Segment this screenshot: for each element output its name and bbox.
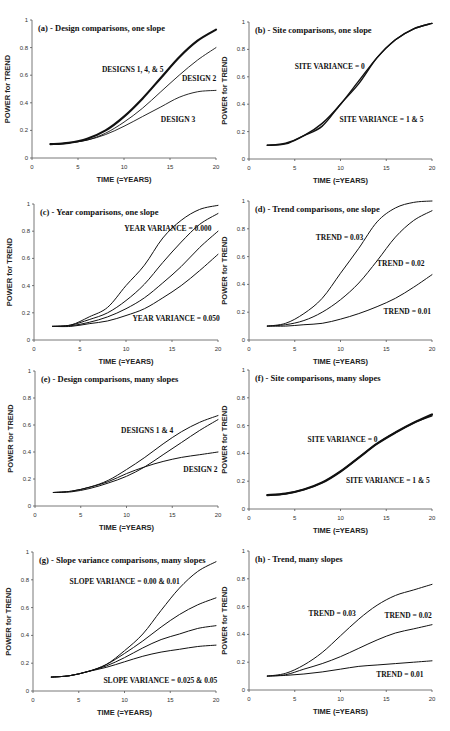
- x-tick-label: 5: [77, 697, 81, 703]
- y-tick-label: 0: [28, 503, 32, 509]
- x-tick-label: 10: [337, 696, 344, 702]
- chart-panel-c: 00.20.40.60.8105101520TIME (=YEARS)POWER…: [5, 201, 222, 366]
- y-tick-label: 0.4: [237, 101, 246, 107]
- y-tick-label: 0.2: [22, 310, 31, 316]
- y-tick-label: 0: [242, 687, 246, 693]
- y-axis-title: POWER for TREND: [220, 586, 229, 655]
- y-tick-label: 0.6: [23, 422, 32, 428]
- x-tick-label: 5: [79, 512, 83, 518]
- y-tick-label: 1: [26, 549, 30, 555]
- series-line: [267, 625, 432, 676]
- figure-grid: 00.20.40.60.8105101520TIME (=YEARS)POWER…: [0, 0, 450, 731]
- y-tick-label: 0.8: [237, 576, 246, 582]
- y-tick-label: 0.2: [237, 129, 246, 135]
- y-tick-label: 0.4: [237, 631, 246, 637]
- x-tick-label: 20: [429, 696, 436, 702]
- y-tick-label: 1: [242, 19, 246, 25]
- y-tick-label: 0.4: [237, 281, 246, 287]
- y-tick-label: 1: [242, 548, 246, 554]
- x-tick-label: 20: [429, 165, 436, 171]
- y-tick-label: 0.6: [237, 423, 246, 429]
- y-tick-label: 0.6: [22, 255, 31, 261]
- series-annotation: SITE VARIANCE = 0: [295, 62, 365, 71]
- y-tick-label: 0.2: [237, 309, 246, 315]
- x-tick-label: 0: [247, 165, 251, 171]
- panel-title: (e) - Design comparisons, many slopes: [41, 374, 179, 384]
- x-tick-label: 15: [169, 512, 176, 518]
- y-tick-label: 0: [25, 155, 29, 161]
- panel-title: (c) - Year comparisons, one slope: [40, 207, 159, 217]
- y-tick-label: 0.4: [237, 450, 246, 456]
- x-tick-label: 20: [215, 346, 222, 352]
- y-axis-title: POWER for TREND: [220, 405, 229, 474]
- y-tick-label: 0.6: [237, 74, 246, 80]
- series-annotation: TREND = 0.01: [376, 670, 424, 679]
- series-line: [51, 645, 216, 677]
- panel-title: (d) - Trend comparisons, one slope: [255, 204, 380, 214]
- x-tick-label: 10: [121, 697, 128, 703]
- y-tick-label: 0.6: [237, 604, 246, 610]
- y-axis-title: POWER for TREND: [220, 56, 229, 125]
- series-annotation: TREND = 0.03: [316, 233, 364, 242]
- y-tick-label: 0.2: [237, 659, 246, 665]
- x-axis-title: TIME (=YEARS): [313, 526, 369, 535]
- series-line: [51, 598, 216, 677]
- x-tick-label: 15: [383, 165, 390, 171]
- series-annotation: SITE VARIANCE = 1 & 5: [340, 115, 424, 124]
- series-annotation: TREND = 0.02: [384, 611, 432, 620]
- y-tick-label: 0.4: [20, 100, 29, 106]
- y-axis-title: POWER for TREND: [6, 404, 15, 473]
- y-tick-label: 0.2: [20, 127, 29, 133]
- x-axis-title: TIME (=YEARS): [313, 707, 369, 716]
- series-annotation: TREND = 0.03: [308, 609, 356, 618]
- y-tick-label: 0: [27, 337, 31, 343]
- x-tick-label: 5: [293, 696, 297, 702]
- y-tick-label: 0.2: [23, 476, 32, 482]
- series-line: [267, 23, 432, 145]
- y-tick-label: 0.6: [237, 254, 246, 260]
- series-annotation: YEAR VARIANCE = 0.000: [124, 224, 212, 233]
- series-line: [267, 23, 432, 145]
- x-tick-label: 10: [337, 346, 344, 352]
- y-axis-title: POWER for TREND: [5, 237, 14, 306]
- y-tick-label: 0.6: [21, 605, 30, 611]
- y-tick-label: 0.8: [22, 228, 31, 234]
- chart-panel-f: 00.20.40.60.8105101520TIME (=YEARS)POWER…: [220, 367, 436, 535]
- series-line: [50, 48, 216, 145]
- y-tick-label: 0.8: [21, 577, 30, 583]
- panel-title: (h) - Trend, many slopes: [255, 554, 343, 564]
- y-tick-label: 0.4: [23, 449, 32, 455]
- series-annotation: SLOPE VARIANCE = 0.00 & 0.01: [70, 577, 180, 586]
- x-tick-label: 20: [213, 697, 220, 703]
- x-tick-label: 10: [121, 164, 128, 170]
- x-tick-label: 5: [76, 164, 80, 170]
- y-axis-title: POWER for TREND: [220, 236, 229, 305]
- x-axis-title: TIME (=YEARS): [97, 708, 153, 717]
- y-tick-label: 1: [27, 201, 31, 207]
- series-line: [50, 30, 216, 145]
- y-tick-label: 0.4: [21, 632, 30, 638]
- chart-panel-d: 00.20.40.60.8105101520TIME (=YEARS)POWER…: [220, 198, 436, 366]
- x-tick-label: 20: [429, 346, 436, 352]
- x-tick-label: 20: [215, 512, 222, 518]
- y-tick-label: 0.2: [21, 660, 30, 666]
- y-tick-label: 1: [242, 367, 246, 373]
- series-line: [267, 275, 432, 327]
- y-tick-label: 0: [242, 337, 246, 343]
- x-tick-label: 15: [167, 164, 174, 170]
- chart-panel-g: 00.20.40.60.8105101520TIME (=YEARS)POWER…: [4, 549, 220, 717]
- x-tick-label: 15: [167, 697, 174, 703]
- series-annotation: DESIGN 2: [183, 465, 218, 474]
- x-tick-label: 0: [247, 346, 251, 352]
- x-tick-label: 15: [383, 515, 390, 521]
- x-tick-label: 5: [293, 515, 297, 521]
- series-annotation: DESIGN 3: [161, 115, 196, 124]
- x-tick-label: 0: [247, 515, 251, 521]
- x-axis-title: TIME (=YEARS): [98, 357, 154, 366]
- x-tick-label: 15: [169, 346, 176, 352]
- chart-panel-b: 00.20.40.60.8105101520TIME (=YEARS)POWER…: [220, 19, 436, 185]
- x-tick-label: 0: [32, 346, 36, 352]
- x-axis-title: TIME (=YEARS): [96, 175, 152, 184]
- y-tick-label: 0.8: [237, 395, 246, 401]
- x-tick-label: 5: [293, 346, 297, 352]
